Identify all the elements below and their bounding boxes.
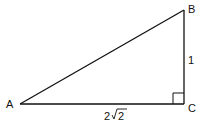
side-label-ac: 2 2 (104, 109, 127, 122)
vertex-label-b: B (188, 3, 195, 15)
triangle (20, 10, 184, 104)
side-label-bc: 1 (188, 54, 194, 66)
triangle-diagram: A B C 1 2 2 (0, 0, 197, 125)
right-angle-marker (173, 93, 184, 104)
side-ab (20, 10, 184, 104)
vertex-label-a: A (6, 98, 14, 110)
vertex-label-c: C (188, 102, 196, 114)
side-label-ac-coefficient: 2 (104, 110, 110, 122)
side-label-ac-radicand: 2 (118, 110, 124, 122)
